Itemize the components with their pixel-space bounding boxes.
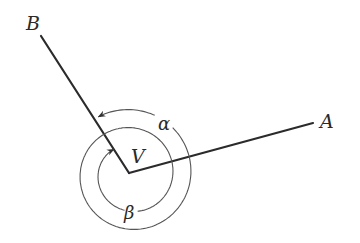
- vertex-v-label: V: [131, 147, 145, 166]
- beta-label: β: [124, 204, 134, 222]
- point-b-label: B: [26, 14, 40, 33]
- alpha-arc: [98, 110, 154, 117]
- diagram-canvas: [0, 0, 360, 243]
- angle-diagram: B A V α β: [0, 0, 360, 243]
- spiral-arc-middle: [80, 128, 191, 230]
- point-a-label: A: [320, 112, 334, 131]
- ray-va: [129, 123, 313, 173]
- alpha-label: α: [158, 115, 170, 133]
- ray-vb: [41, 36, 129, 173]
